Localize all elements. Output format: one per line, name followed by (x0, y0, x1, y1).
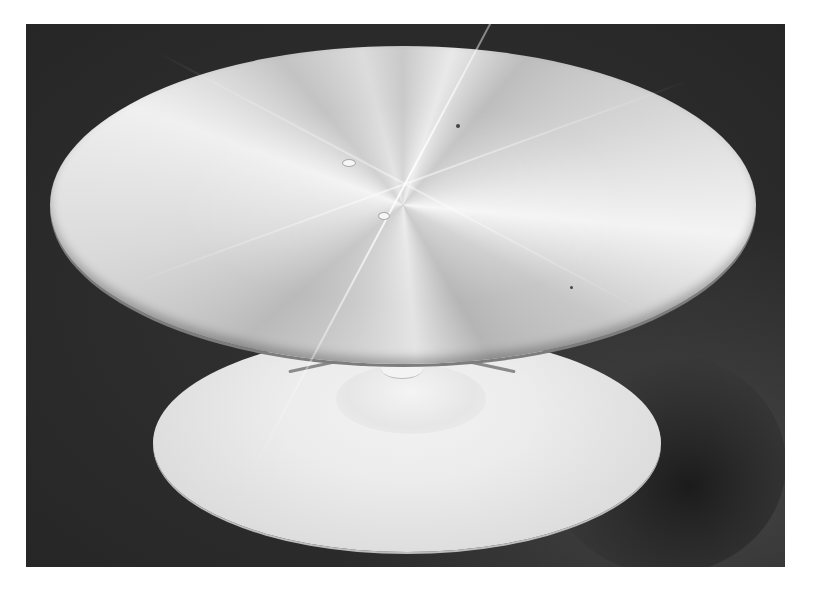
mounting-hole (342, 159, 356, 167)
photo-frame (26, 24, 785, 567)
surface-speck (456, 124, 460, 128)
mounting-hole (378, 212, 390, 220)
brushed-highlights (405, 183, 406, 184)
surface-speck (570, 286, 573, 289)
